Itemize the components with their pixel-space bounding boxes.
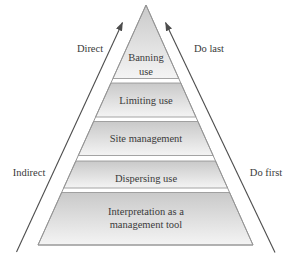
pyramid-level-1-label-line1: Banning bbox=[128, 52, 164, 63]
pyramid-level-1-label-line2: use bbox=[139, 66, 153, 77]
pyramid-level-3-label: Site management bbox=[110, 133, 183, 144]
pyramid-level-4-label: Dispersing use bbox=[115, 173, 177, 184]
pyramid-level-5-label-line1: Interpretation as a bbox=[108, 206, 184, 217]
pyramid-svg: Banning use Limiting use Site management… bbox=[0, 0, 291, 258]
pyramid-diagram: Banning use Limiting use Site management… bbox=[0, 0, 291, 258]
left-arrow-top-label: Direct bbox=[77, 43, 103, 54]
pyramid-level-2-label: Limiting use bbox=[119, 95, 173, 106]
left-arrow-bottom-label: Indirect bbox=[13, 167, 46, 178]
right-arrow-top-label: Do last bbox=[194, 43, 224, 54]
pyramid-level-5-label-line2: management tool bbox=[110, 219, 183, 230]
right-arrow-bottom-label: Do first bbox=[250, 167, 282, 178]
